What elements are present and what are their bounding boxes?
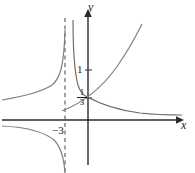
- curve-decaying-through-one-third: [88, 97, 182, 115]
- x-axis-label: x: [181, 119, 186, 131]
- curve-hyperbola-upper-left: [2, 30, 65, 100]
- y-intercept-one-third-label: 1 3: [76, 88, 88, 108]
- math-graph-figure: y x 1 −3 1 3: [0, 0, 195, 173]
- asymptote-negative-three-label: −3: [52, 125, 64, 136]
- y-axis-label: y: [88, 1, 93, 13]
- y-intercept-one-label: 1: [77, 64, 83, 75]
- fraction-numerator: 1: [76, 88, 88, 97]
- fraction-denominator: 3: [76, 98, 88, 107]
- graph-canvas: [0, 0, 195, 173]
- curve-exponential-rising: [62, 24, 142, 111]
